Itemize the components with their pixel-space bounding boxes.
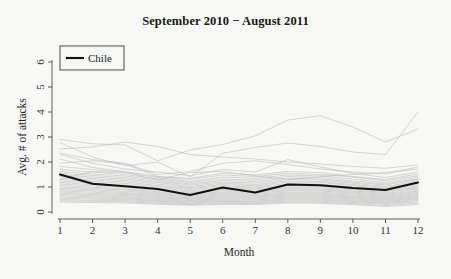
x-axis-tick-label: 8 xyxy=(285,224,291,236)
y-axis-tick-label: 5 xyxy=(34,84,46,90)
line-chart-plot: 123456789101112Month0123456Avg. # of att… xyxy=(0,0,451,279)
x-axis-tick-label: 12 xyxy=(413,224,424,236)
x-axis-tick-label: 10 xyxy=(347,224,359,236)
series-line xyxy=(60,116,418,161)
x-axis-tick-label: 11 xyxy=(380,224,391,236)
y-axis-title: Avg. # of attacks xyxy=(16,98,29,176)
x-axis-title: Month xyxy=(224,246,255,258)
x-axis-tick-label: 6 xyxy=(220,224,226,236)
chart-legend: Chile xyxy=(60,46,124,70)
x-axis-tick-label: 1 xyxy=(57,224,63,236)
y-axis-tick-label: 4 xyxy=(34,109,46,115)
x-axis-tick-label: 7 xyxy=(253,224,259,236)
chart-figure: September 2010 − August 2011 12345678910… xyxy=(0,0,451,279)
y-axis-tick-label: 3 xyxy=(34,134,46,140)
y-axis-tick-label: 1 xyxy=(34,184,46,190)
x-axis-tick-label: 5 xyxy=(187,224,193,236)
x-axis-tick-label: 2 xyxy=(90,224,96,236)
y-axis-tick-label: 6 xyxy=(34,59,46,65)
y-axis-tick-label: 0 xyxy=(34,209,46,215)
x-axis-tick-label: 4 xyxy=(155,224,161,236)
series-line xyxy=(60,142,418,168)
x-axis-tick-label: 9 xyxy=(318,224,324,236)
x-axis-tick-label: 3 xyxy=(122,224,128,236)
background-series-group xyxy=(60,112,418,207)
legend-label-chile: Chile xyxy=(88,52,112,64)
axes-group: 123456789101112Month0123456Avg. # of att… xyxy=(16,59,424,258)
y-axis-tick-label: 2 xyxy=(34,159,46,165)
